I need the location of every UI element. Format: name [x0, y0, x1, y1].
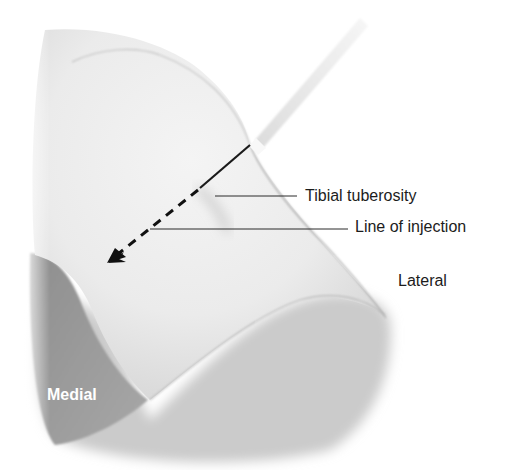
syringe [249, 18, 368, 155]
label-line-of-injection: Line of injection [355, 218, 466, 236]
label-tibial-tuberosity: Tibial tuberosity [305, 187, 416, 205]
label-lateral: Lateral [398, 272, 447, 290]
knee-injection-diagram: Tibial tuberosity Line of injection Late… [0, 0, 528, 470]
label-medial: Medial [47, 386, 97, 404]
